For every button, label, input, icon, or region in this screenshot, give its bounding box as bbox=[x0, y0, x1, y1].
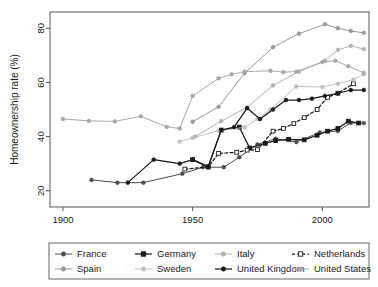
legend-label: Sweden bbox=[157, 263, 191, 274]
data-point-marker bbox=[271, 83, 275, 87]
data-point-marker bbox=[141, 252, 145, 256]
data-point-marker bbox=[219, 128, 223, 132]
data-point-marker bbox=[141, 181, 145, 185]
data-point-marker bbox=[320, 85, 324, 89]
data-point-marker bbox=[217, 151, 221, 155]
data-point-marker bbox=[292, 122, 296, 126]
data-point-marker bbox=[180, 172, 184, 176]
legend-label: Netherlands bbox=[314, 248, 365, 259]
data-point-marker bbox=[113, 120, 117, 124]
legend-label: France bbox=[77, 248, 107, 259]
data-point-marker bbox=[297, 98, 301, 102]
data-point-marker bbox=[284, 98, 288, 102]
data-point-marker bbox=[258, 117, 262, 121]
data-point-marker bbox=[352, 82, 356, 86]
data-point-marker bbox=[282, 127, 286, 131]
data-point-marker bbox=[191, 158, 195, 162]
data-point-marker bbox=[221, 252, 225, 256]
data-point-marker bbox=[323, 94, 327, 98]
data-point-marker bbox=[336, 48, 340, 52]
data-point-marker bbox=[217, 76, 221, 80]
data-point-marker bbox=[61, 267, 65, 271]
data-point-marker bbox=[287, 137, 291, 141]
legend-label: Spain bbox=[77, 263, 101, 274]
data-point-marker bbox=[336, 127, 340, 131]
chart-legend: FranceGermanyItalyNetherlandsSpainSweden… bbox=[49, 243, 371, 279]
data-point-marker bbox=[282, 70, 286, 74]
data-point-marker bbox=[362, 31, 366, 35]
data-point-marker bbox=[346, 64, 350, 68]
data-point-marker bbox=[152, 158, 156, 162]
data-point-marker bbox=[230, 72, 234, 76]
chart-figure: 20406080190019502000Homeownership rate (… bbox=[0, 0, 378, 287]
data-point-marker bbox=[191, 120, 195, 124]
data-point-marker bbox=[302, 138, 306, 142]
data-point-marker bbox=[221, 267, 225, 271]
y-tick-label: 20 bbox=[35, 185, 46, 196]
data-point-marker bbox=[178, 127, 182, 131]
data-point-marker bbox=[323, 22, 327, 26]
data-point-marker bbox=[362, 88, 366, 92]
data-point-marker bbox=[294, 85, 298, 89]
data-point-marker bbox=[116, 181, 120, 185]
data-point-marker bbox=[336, 91, 340, 95]
data-point-marker bbox=[222, 165, 226, 169]
data-point-marker bbox=[269, 69, 273, 73]
data-point-marker bbox=[349, 44, 353, 48]
data-point-marker bbox=[315, 133, 319, 137]
data-point-marker bbox=[302, 116, 306, 120]
legend-label: Italy bbox=[237, 248, 255, 259]
data-point-marker bbox=[362, 47, 366, 51]
x-tick-label: 1950 bbox=[182, 214, 203, 225]
data-point-marker bbox=[235, 150, 239, 154]
data-point-marker bbox=[298, 267, 302, 271]
data-point-marker bbox=[245, 106, 249, 110]
homeownership-line-chart: 20406080190019502000Homeownership rate (… bbox=[0, 0, 378, 287]
y-tick-label: 60 bbox=[35, 77, 46, 88]
legend-label: Germany bbox=[157, 248, 196, 259]
data-point-marker bbox=[217, 105, 221, 109]
data-point-marker bbox=[191, 94, 195, 98]
data-point-marker bbox=[165, 125, 169, 129]
data-point-marker bbox=[349, 29, 353, 33]
data-point-marker bbox=[61, 252, 65, 256]
data-point-marker bbox=[141, 267, 145, 271]
data-point-marker bbox=[357, 121, 361, 125]
data-point-marker bbox=[139, 114, 143, 118]
data-point-marker bbox=[320, 60, 324, 64]
x-tick-label: 2000 bbox=[312, 214, 333, 225]
data-point-marker bbox=[191, 136, 195, 140]
data-point-marker bbox=[362, 71, 366, 75]
data-point-marker bbox=[349, 88, 353, 92]
y-axis-title: Homeownership rate (%) bbox=[9, 54, 20, 165]
data-point-marker bbox=[61, 117, 65, 121]
data-point-marker bbox=[297, 32, 301, 36]
data-point-marker bbox=[310, 97, 314, 101]
data-point-marker bbox=[271, 45, 275, 49]
y-tick-label: 40 bbox=[35, 131, 46, 142]
data-point-marker bbox=[256, 148, 260, 152]
data-point-marker bbox=[126, 181, 130, 185]
data-point-marker bbox=[294, 70, 298, 74]
data-point-marker bbox=[294, 140, 298, 144]
legend-label: United States bbox=[314, 263, 371, 274]
x-tick-label: 1900 bbox=[52, 214, 73, 225]
data-point-marker bbox=[315, 108, 319, 112]
data-point-marker bbox=[232, 125, 236, 129]
y-tick-label: 80 bbox=[35, 23, 46, 34]
data-point-marker bbox=[298, 252, 302, 256]
data-point-marker bbox=[90, 178, 94, 182]
data-point-marker bbox=[274, 139, 278, 143]
data-point-marker bbox=[178, 162, 182, 166]
data-point-marker bbox=[237, 155, 241, 159]
data-point-marker bbox=[243, 70, 247, 74]
data-point-marker bbox=[178, 140, 182, 144]
data-point-marker bbox=[87, 119, 91, 123]
data-point-marker bbox=[243, 125, 247, 129]
data-point-marker bbox=[336, 26, 340, 30]
data-point-marker bbox=[346, 119, 350, 123]
data-point-marker bbox=[271, 108, 275, 112]
data-point-marker bbox=[206, 165, 210, 169]
data-point-marker bbox=[362, 121, 366, 125]
data-point-marker bbox=[219, 119, 223, 123]
